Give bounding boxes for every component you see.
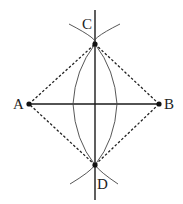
label-d: D	[97, 176, 108, 192]
label-b: B	[164, 96, 174, 112]
label-a: A	[13, 96, 24, 112]
construction-diagram: A B C D	[0, 0, 183, 204]
point-d	[92, 162, 97, 167]
point-c	[92, 41, 97, 46]
point-a	[26, 101, 31, 106]
point-b	[156, 101, 161, 106]
label-c: C	[82, 16, 92, 32]
